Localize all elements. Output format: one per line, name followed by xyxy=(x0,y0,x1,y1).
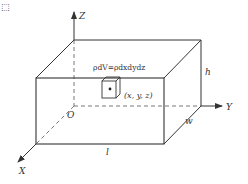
length-label: l xyxy=(106,147,109,157)
element-coordinates: (x, y, z) xyxy=(124,91,153,100)
front-face xyxy=(36,78,164,144)
height-label: h xyxy=(205,67,211,77)
y-axis-label: Y xyxy=(226,102,233,112)
volume-element-icon xyxy=(102,77,120,98)
width-label: w xyxy=(185,116,193,126)
origin-label: O xyxy=(67,110,75,120)
bottom-right-diagonal xyxy=(164,106,201,144)
x-axis-label: X xyxy=(18,166,26,176)
mass-formula: ρdV=ρdxdydz xyxy=(93,63,145,72)
rectangular-box-diagram: ⬚ Z Y X O l w h ρdV=ρdxdydz (x, y, z) xyxy=(0,0,248,184)
z-axis-label: Z xyxy=(78,11,86,21)
corner-mark: ⬚ xyxy=(1,2,10,12)
top-right-diagonal xyxy=(164,40,201,78)
top-left-diagonal xyxy=(36,40,74,78)
x-axis xyxy=(18,144,36,162)
